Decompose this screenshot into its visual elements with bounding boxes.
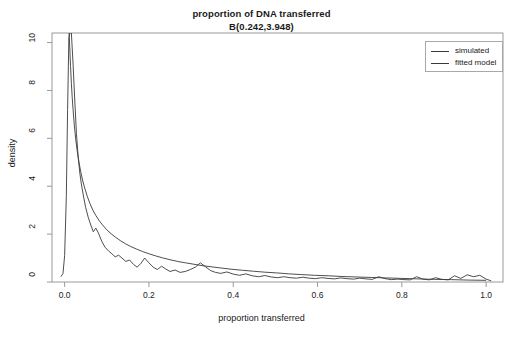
x-tick-label: 0.4: [218, 290, 248, 300]
x-tick-label: 1.0: [471, 290, 501, 300]
x-tick-label: 0.8: [387, 290, 417, 300]
legend-item-label: fitted model: [455, 59, 496, 67]
y-tick-label: 4: [27, 176, 37, 196]
legend-item-label: simulated: [455, 47, 489, 55]
x-axis-label: proportion transferred: [0, 313, 523, 323]
legend-item-fitted-model: fitted model: [431, 57, 496, 69]
y-axis-label: density: [7, 123, 17, 183]
chart-legend: simulated fitted model: [425, 41, 503, 72]
x-tick-label: 0.6: [303, 290, 333, 300]
legend-line-icon: [431, 63, 449, 64]
y-tick-label: 2: [27, 224, 37, 244]
x-tick-label: 0.0: [50, 290, 80, 300]
legend-item-simulated: simulated: [431, 45, 489, 57]
chart-container: proportion of DNA transferred B(0.242,3.…: [0, 0, 523, 342]
y-tick-label: 8: [27, 80, 37, 100]
y-tick-label: 6: [27, 128, 37, 148]
x-tick-label: 0.2: [134, 290, 164, 300]
legend-line-icon: [431, 51, 449, 52]
x-axis-ticks: [65, 282, 486, 287]
y-tick-label: 0: [27, 272, 37, 292]
y-tick-label: 10: [27, 33, 37, 53]
y-axis-ticks: [47, 43, 52, 282]
